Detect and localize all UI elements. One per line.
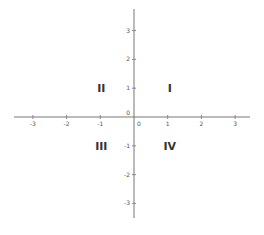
y-tick-label: 1: [126, 84, 130, 91]
y-tick-label: -3: [124, 199, 130, 206]
x-tick-label: -2: [64, 120, 70, 127]
y-tick-label: -1: [124, 142, 130, 149]
x-tick-label: -3: [30, 120, 36, 127]
y-tick-label: -2: [124, 171, 130, 178]
x-tick-label: 3: [233, 120, 237, 127]
x-tick-label: 2: [199, 120, 203, 127]
y-tick-label: 2: [126, 55, 130, 62]
x-tick-label: -1: [97, 120, 103, 127]
coordinate-plane: -3-2-10123 3210-1-2-3 IIIIIIIV: [0, 0, 264, 235]
y-tick-label: 3: [126, 27, 130, 34]
y-tick-label: 0: [126, 109, 130, 116]
quadrant-label: IV: [163, 140, 176, 153]
x-tick-label: 1: [166, 120, 170, 127]
x-tick-label: 0: [137, 120, 141, 127]
quadrant-label: III: [95, 140, 107, 153]
quadrant-label: II: [97, 82, 105, 95]
quadrant-label: I: [168, 82, 172, 95]
